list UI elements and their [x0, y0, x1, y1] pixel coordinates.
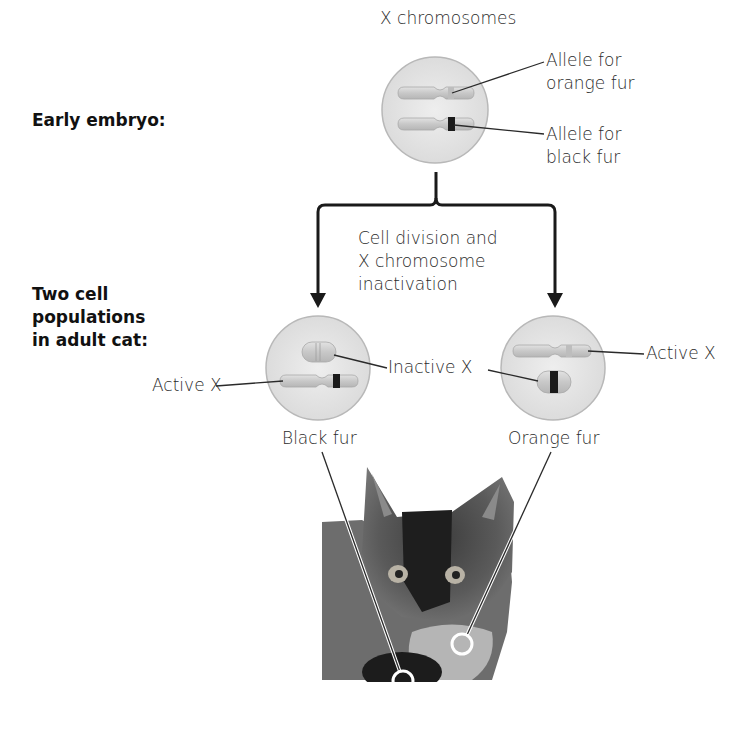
black-fur-pointer: [322, 452, 413, 691]
inactive-x-chromosome: [302, 342, 336, 362]
branching-arrow: [318, 172, 555, 295]
black-fur-cell: [266, 316, 370, 420]
orange-fur-pointer: [452, 452, 551, 654]
early-embryo-cell: [382, 57, 488, 163]
active-x-chromosome-orange: [513, 345, 591, 357]
x-inactivation-diagram: [0, 0, 741, 731]
arrowhead-left: [310, 293, 326, 308]
arrowhead-right: [547, 293, 563, 308]
orange-fur-cell: [501, 316, 605, 420]
inactive-x-chromosome-black-band: [537, 371, 571, 393]
